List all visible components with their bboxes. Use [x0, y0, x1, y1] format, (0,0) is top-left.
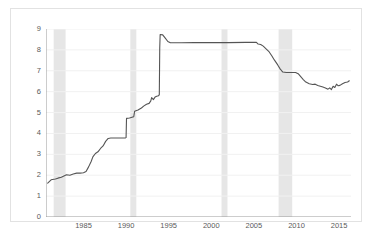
plot-area: [46, 29, 351, 217]
recession-band: [222, 29, 228, 217]
y-tick-label: 2: [27, 171, 41, 179]
x-tick-label: 2010: [283, 222, 309, 230]
x-tick-label: 2005: [241, 222, 267, 230]
x-tick-label: 2015: [326, 222, 352, 230]
plot-background: [46, 29, 351, 217]
chart-canvas: [46, 29, 351, 217]
chart-svg: [46, 29, 351, 217]
x-tick-label: 1995: [156, 222, 182, 230]
y-tick-label: 6: [27, 88, 41, 96]
y-tick-label: 8: [27, 46, 41, 54]
y-tick-label: 4: [27, 129, 41, 137]
x-tick-label: 2000: [198, 222, 224, 230]
chart-figure: 01234567891985199019952000200520102015: [10, 8, 362, 222]
recession-band: [279, 29, 293, 217]
x-tick-label: 1985: [70, 222, 96, 230]
x-tick-label: 1990: [113, 222, 139, 230]
y-tick-label: 1: [27, 192, 41, 200]
y-tick-label: 0: [27, 213, 41, 221]
recession-band: [130, 29, 136, 217]
y-tick-label: 9: [27, 25, 41, 33]
y-tick-label: 5: [27, 109, 41, 117]
y-tick-label: 7: [27, 67, 41, 75]
y-tick-label: 3: [27, 150, 41, 158]
recession-band: [54, 29, 66, 217]
